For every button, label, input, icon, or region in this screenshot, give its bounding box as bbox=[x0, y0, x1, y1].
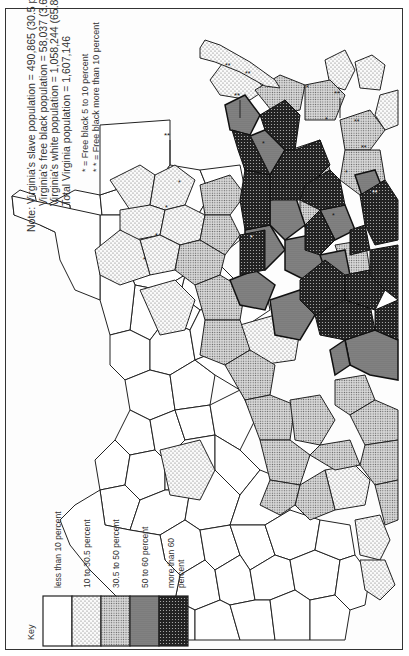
legend-swatch-1 bbox=[43, 596, 72, 646]
svg-text:**: ** bbox=[225, 62, 231, 69]
note-line-total: Total Virginia population = 1,607,146 bbox=[61, 0, 73, 232]
svg-text:*: * bbox=[250, 234, 253, 241]
svg-text:*: * bbox=[262, 140, 265, 147]
svg-text:**: ** bbox=[354, 118, 360, 125]
svg-text:*: * bbox=[306, 84, 309, 91]
note-line-white: Virginia's white population = 1,058,244 … bbox=[49, 0, 61, 232]
footnote-double-star: * * = Free black more than 10 percent bbox=[91, 22, 102, 172]
svg-text:*: * bbox=[165, 204, 168, 211]
legend-label-4: 50 to 60 percent bbox=[140, 527, 150, 588]
legend-swatch-3 bbox=[101, 596, 130, 646]
legend-swatch-5 bbox=[159, 596, 188, 646]
legend-label-5: more than 60 percent bbox=[166, 538, 186, 588]
svg-text:**: ** bbox=[245, 70, 251, 77]
svg-text:*: * bbox=[305, 224, 308, 231]
svg-text:**: ** bbox=[361, 144, 367, 151]
svg-text:*: * bbox=[332, 212, 335, 219]
note-line-slave: Note: Virginia's slave population = 490,… bbox=[26, 0, 38, 232]
svg-text:*: * bbox=[345, 169, 348, 176]
svg-text:*: * bbox=[178, 179, 181, 186]
legend-label-3: 30.5 to 50 percent bbox=[111, 519, 121, 588]
legend-swatches bbox=[43, 596, 188, 646]
svg-text:**: ** bbox=[334, 89, 340, 98]
svg-text:**: ** bbox=[234, 91, 240, 100]
svg-text:*: * bbox=[143, 256, 146, 263]
legend-swatch-4 bbox=[130, 596, 159, 646]
population-note: Note: Virginia's slave population = 490,… bbox=[26, 0, 72, 232]
svg-text:*: * bbox=[325, 116, 328, 123]
marker-footnotes: * = Free black 5 to 10 percent * * = Fre… bbox=[80, 22, 102, 172]
svg-text:*: * bbox=[155, 232, 158, 239]
footnote-single-star: * = Free black 5 to 10 percent bbox=[80, 22, 91, 172]
svg-text:**: ** bbox=[164, 131, 170, 140]
key-title: Key bbox=[26, 624, 36, 640]
svg-text:*: * bbox=[282, 184, 285, 191]
legend-label-2: 10 to 30.5 percent bbox=[82, 519, 92, 588]
legend-label-1: less than 10 percent bbox=[53, 511, 63, 588]
svg-text:**: ** bbox=[372, 189, 378, 196]
legend-swatch-2 bbox=[72, 596, 101, 646]
